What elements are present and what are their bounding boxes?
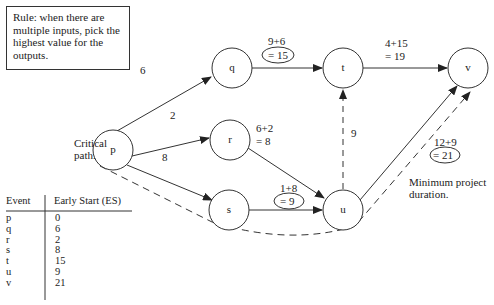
table-header-event: Event [6,196,31,207]
edge-label-u-t: 9 [351,127,357,139]
table-cell-es: 6 [55,224,66,235]
node-label-u: u [333,203,353,215]
edge-label-s-u-sum: 1+8 [280,182,297,194]
node-label-v: v [458,61,478,73]
table-cell-event: v [6,278,11,289]
table-event-column: p q r s t u v [6,213,11,289]
edge-label-p-s: 8 [162,151,168,163]
min-duration-label-line2: duration. [409,188,448,200]
edge-p-q [117,77,211,131]
edge-label-q-t-sum: 9+6 [268,35,285,47]
edge-label-t-v-result: = 19 [385,50,405,62]
node-label-t: t [333,61,353,73]
table-header-es: Early Start (ES) [54,196,121,207]
rule-text: Rule: when there are multiple inputs, pi… [13,11,120,61]
node-label-r: r [220,133,240,145]
edge-p-s [127,165,212,200]
min-duration-label-line1: Minimum project [409,176,486,188]
table-cell-es: 21 [55,278,66,289]
table-es-column: 0 6 2 8 15 9 21 [55,213,66,289]
edge-label-u-v-result: = 21 [433,149,453,161]
table-cell-event: q [6,224,11,235]
edge-label-t-v-sum: 4+15 [385,37,408,49]
critical-path-label-line2: path. [74,149,96,161]
edge-label-r-u-result: = 8 [256,135,270,147]
critical-path-dashed [100,92,470,235]
node-label-s: s [219,203,239,215]
node-label-q: q [222,61,242,73]
edge-label-q-t-result: = 15 [268,49,288,61]
edge-label-s-u-result: = 9 [280,195,294,207]
edge-label-r-u-sum: 6+2 [256,122,273,134]
edge-label-u-v-sum: 12+9 [434,136,457,148]
rule-note: Rule: when there are multiple inputs, pi… [6,6,130,70]
edge-label-p-q: 6 [140,64,146,76]
critical-path-label-line1: Critical [74,137,107,149]
edge-label-p-r: 2 [170,109,176,121]
edge-p-r [132,138,209,156]
